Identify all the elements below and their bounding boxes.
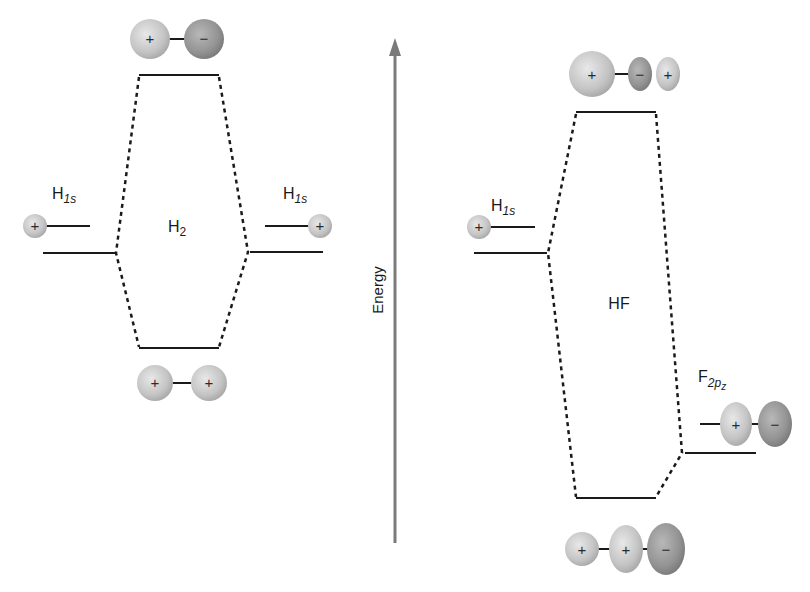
sign-plus: + [146, 30, 155, 47]
ao-label-subsub: z [720, 381, 726, 392]
h2-title: H2 [168, 218, 187, 239]
sign-plus: + [151, 374, 160, 391]
sign-plus: + [475, 218, 484, 235]
h2-connectors [116, 77, 248, 347]
hf-antibonding-orbital: + − + [569, 51, 680, 97]
svg-text:F2pz: F2pz [698, 368, 726, 392]
svg-text:H1s: H1s [283, 185, 307, 206]
sign-plus: + [578, 541, 587, 558]
h2-bonding-orbital: + + [137, 365, 227, 401]
ao-label: H [52, 185, 64, 202]
svg-text:H1s: H1s [491, 197, 515, 218]
sign-plus: + [732, 416, 741, 433]
hf-title: HF [608, 295, 630, 312]
energy-axis: Energy [369, 38, 401, 543]
sign-plus: + [664, 66, 673, 83]
svg-text:H1s: H1s [52, 185, 76, 206]
h2-antibonding-orbital: + − [130, 19, 224, 59]
sign-minus: − [200, 30, 209, 47]
ao-label: F [698, 368, 708, 385]
hf-bonding-orbital: + + − [565, 523, 685, 575]
sign-plus: + [588, 66, 597, 83]
ao-label-sub: 1s [503, 204, 516, 218]
mo-diagram: + − H1s + H1s + H2 [0, 0, 810, 592]
sign-plus: + [31, 217, 40, 234]
h2-left-ao: H1s + [23, 185, 116, 253]
sign-minus: − [771, 416, 780, 433]
ao-label: H [283, 185, 295, 202]
ao-label-sub: 1s [64, 192, 77, 206]
sign-plus: + [205, 374, 214, 391]
sign-plus: + [316, 217, 325, 234]
hf-diagram: + − + H1s + F2pz + − [467, 51, 792, 575]
sign-minus: − [636, 66, 645, 83]
ao-label-sub: 2p [707, 376, 722, 390]
h2-right-ao: H1s + [250, 185, 332, 252]
sign-plus: + [622, 541, 631, 558]
ao-label-sub: 1s [295, 192, 308, 206]
arrow-up-icon [389, 38, 401, 56]
ao-label: H [491, 197, 503, 214]
energy-label: Energy [369, 266, 386, 314]
hf-left-ao: H1s + [467, 197, 547, 253]
h2-diagram: + − H1s + H1s + H2 [23, 19, 332, 401]
sign-minus: − [662, 541, 671, 558]
hf-right-ao: F2pz + − [685, 368, 792, 453]
